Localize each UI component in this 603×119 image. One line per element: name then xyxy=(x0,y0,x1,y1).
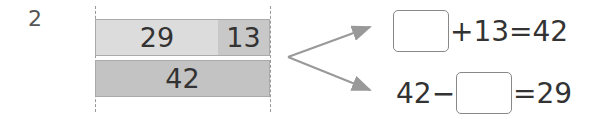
equation-suffix: +13=42 xyxy=(450,15,568,48)
equation-addition: +13=42 xyxy=(393,10,569,52)
arrow-up-icon xyxy=(288,27,370,57)
equation-subtraction: 42− =29 xyxy=(395,72,573,114)
equation-prefix: 42− xyxy=(396,77,455,110)
answer-box-1[interactable] xyxy=(393,10,449,52)
equation-suffix: =29 xyxy=(513,77,572,110)
answer-box-2[interactable] xyxy=(456,72,512,114)
arrow-down-icon xyxy=(288,57,370,90)
